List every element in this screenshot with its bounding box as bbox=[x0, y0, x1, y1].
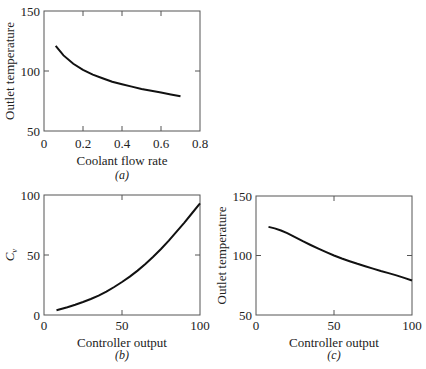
data-curve bbox=[57, 203, 201, 310]
x-axis-label: Coolant flow rate bbox=[77, 153, 168, 168]
y-tick-label: 50 bbox=[27, 124, 40, 139]
x-tick-label: 0 bbox=[253, 318, 260, 333]
y-tick-label: 50 bbox=[239, 308, 252, 323]
plot-frame bbox=[44, 11, 200, 131]
panel-label: (c) bbox=[327, 348, 340, 362]
y-tick-label: 0 bbox=[34, 308, 41, 323]
y-axis-label: Cv bbox=[2, 249, 19, 262]
x-tick-label: 0.6 bbox=[153, 136, 170, 151]
x-tick-label: 0.2 bbox=[75, 136, 91, 151]
x-tick-label: 100 bbox=[402, 318, 422, 333]
y-tick-label: 100 bbox=[21, 64, 41, 79]
x-tick-label: 0 bbox=[41, 136, 48, 151]
x-tick-label: 100 bbox=[190, 318, 210, 333]
x-tick-label: 50 bbox=[116, 318, 129, 333]
chart-panel-c: 05010050100150Controller outputOutlet te… bbox=[214, 189, 422, 363]
y-tick-label: 150 bbox=[233, 189, 253, 204]
y-axis-label: Outlet temperature bbox=[2, 22, 17, 120]
y-tick-label: 100 bbox=[21, 188, 41, 203]
x-tick-label: 50 bbox=[328, 318, 341, 333]
panel-label: (b) bbox=[115, 348, 129, 362]
x-tick-label: 0.4 bbox=[114, 136, 131, 151]
y-tick-label: 150 bbox=[21, 4, 41, 19]
data-curve bbox=[56, 46, 181, 96]
x-tick-label: 0.8 bbox=[192, 136, 208, 151]
x-tick-label: 0 bbox=[41, 318, 48, 333]
plot-frame bbox=[44, 195, 200, 315]
data-curve bbox=[269, 227, 413, 281]
chart-panel-b: 050100050100Controller outputCv(b) bbox=[2, 188, 210, 363]
panel-label: (a) bbox=[115, 168, 129, 182]
chart-panel-a: 00.20.40.60.850100150Coolant flow rateOu… bbox=[2, 4, 208, 183]
y-tick-label: 50 bbox=[27, 248, 40, 263]
y-tick-label: 100 bbox=[233, 248, 253, 263]
figure-canvas: 00.20.40.60.850100150Coolant flow rateOu… bbox=[0, 0, 426, 369]
y-axis-label: Outlet temperature bbox=[214, 206, 229, 304]
